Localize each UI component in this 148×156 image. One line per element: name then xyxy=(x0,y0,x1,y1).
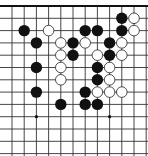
black-stone-icon xyxy=(67,37,78,48)
black-stone-icon xyxy=(19,25,30,36)
white-stone-icon xyxy=(56,50,67,61)
black-stone-icon xyxy=(80,86,91,97)
black-stone-icon xyxy=(92,25,103,36)
black-stone-icon xyxy=(31,86,42,97)
black-stone-icon xyxy=(92,99,103,110)
white-stone-icon xyxy=(117,38,128,49)
white-stone-icon xyxy=(56,38,67,49)
black-stone-icon xyxy=(31,62,42,73)
black-stone-icon xyxy=(31,37,42,48)
white-stone-icon xyxy=(56,75,67,86)
white-stone-icon xyxy=(104,87,115,98)
black-stone-icon xyxy=(116,25,127,36)
black-stone-icon xyxy=(92,74,103,85)
white-stone-icon xyxy=(92,50,103,61)
black-stone-icon xyxy=(116,13,127,24)
black-stone-icon xyxy=(92,62,103,73)
white-stone-icon xyxy=(56,62,67,73)
black-stone-icon xyxy=(104,37,115,48)
white-stone-icon xyxy=(104,62,115,73)
black-stone-icon xyxy=(104,50,115,61)
black-stone-icon xyxy=(55,99,66,110)
black-stone-icon xyxy=(67,50,78,61)
white-stone-icon xyxy=(129,25,140,36)
white-stone-icon xyxy=(117,50,128,61)
white-stone-icon xyxy=(117,87,128,98)
white-stone-icon xyxy=(104,75,115,86)
white-stone-icon xyxy=(129,13,140,24)
white-stone-icon xyxy=(92,87,103,98)
star-point-icon xyxy=(108,115,111,118)
black-stone-icon xyxy=(80,25,91,36)
white-stone-icon xyxy=(80,38,91,49)
black-stone-icon xyxy=(80,99,91,110)
go-board-svg xyxy=(0,0,148,156)
white-stone-icon xyxy=(43,25,54,36)
go-board xyxy=(0,0,148,156)
star-point-icon xyxy=(35,115,38,118)
